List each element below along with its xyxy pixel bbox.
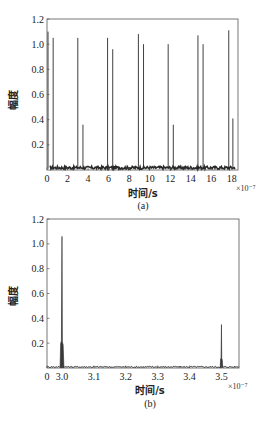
chart-b: 0.20.40.60.81.01.2 03.03.13.23.33.43.5 幅… — [7, 214, 248, 411]
y-tick-label: 1.0 — [32, 39, 45, 50]
x-tick-label: 4 — [86, 173, 91, 184]
plot-frame-b — [47, 219, 239, 368]
x-tick-label: 3.3 — [151, 371, 164, 382]
x-tick-label: 0 — [45, 371, 50, 382]
y-tick-label: 0.6 — [32, 288, 45, 299]
x-axis-label-a: 时间/s — [128, 187, 158, 199]
y-tick-label: 0.6 — [32, 89, 45, 100]
x-tick-label: 16 — [206, 173, 216, 184]
x-multiplier-a: ×10⁻⁷ — [236, 184, 256, 193]
chart-a: 0.20.40.60.81.01.2 024681012141618 幅度 时间… — [7, 14, 256, 213]
y-tick-label: 1.2 — [32, 14, 45, 25]
x-tick-label: 3.5 — [215, 371, 228, 382]
y-tick-label: 0.8 — [32, 64, 45, 75]
figure: 0.20.40.60.81.01.2 024681012141618 幅度 时间… — [0, 0, 256, 423]
y-tick-label: 0.2 — [32, 139, 45, 150]
x-tick-label: 2 — [65, 173, 70, 184]
signal-trace-b — [47, 236, 239, 367]
x-tick-label: 6 — [106, 173, 111, 184]
x-tick-label: 18 — [227, 173, 237, 184]
x-tick-label: 14 — [186, 173, 196, 184]
x-multiplier-b: ×10⁻⁷ — [228, 382, 248, 391]
y-tick-label: 1.0 — [32, 238, 45, 249]
x-tick-label: 3.4 — [183, 371, 196, 382]
x-tick-label: 12 — [165, 173, 175, 184]
x-tick-label: 0 — [45, 173, 50, 184]
y-tick-label: 0.8 — [32, 263, 45, 274]
plot-frame-a — [47, 19, 238, 170]
x-axis-label-b: 时间/s — [135, 384, 165, 396]
caption-b: (b) — [144, 398, 156, 410]
x-tick-label: 3.0 — [56, 371, 69, 382]
y-tick-label: 0.4 — [32, 114, 45, 125]
y-axis-label-a: 幅度 — [7, 89, 19, 110]
y-axis-label-b: 幅度 — [7, 285, 19, 306]
signal-trace-a — [48, 30, 235, 169]
pulse-peak — [60, 236, 64, 367]
noise-floor — [47, 366, 239, 367]
y-tick-label: 0.2 — [32, 338, 45, 349]
y-tick-label: 0.4 — [32, 313, 45, 324]
y-tick-label: 1.2 — [32, 214, 45, 225]
caption-a: (a) — [137, 200, 148, 212]
pulse-peak — [220, 325, 223, 368]
x-tick-label: 3.2 — [120, 371, 133, 382]
x-tick-label: 10 — [145, 173, 155, 184]
x-tick-label: 8 — [127, 173, 132, 184]
x-tick-label: 3.1 — [88, 371, 101, 382]
